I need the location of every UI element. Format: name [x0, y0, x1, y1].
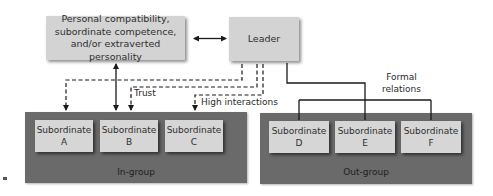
formal-relations-label: Formal relations: [382, 72, 421, 95]
stray-mark: [3, 177, 7, 180]
subordinate-e: Subordinate E: [335, 121, 395, 153]
subordinate-c: Subordinate C: [165, 120, 223, 152]
leader-node: Leader: [229, 17, 299, 61]
subordinate-c-letter: C: [191, 136, 197, 148]
subordinate-b-title: Subordinate: [102, 124, 157, 136]
subordinate-f-letter: F: [428, 137, 433, 149]
subordinate-b-letter: B: [126, 136, 132, 148]
leader-formal-line: [287, 63, 365, 100]
subordinate-a-letter: A: [61, 136, 67, 148]
high-interactions-label: High interactions: [201, 97, 278, 109]
subordinate-c-title: Subordinate: [167, 124, 222, 136]
subordinate-e-letter: E: [362, 137, 368, 149]
subordinate-a: Subordinate A: [35, 120, 93, 152]
factors-node: Personal compatibility, subordinate comp…: [46, 16, 185, 60]
subordinate-b: Subordinate B: [100, 120, 158, 152]
subordinate-f-title: Subordinate: [404, 125, 459, 137]
formal-relations-line-1: Formal: [382, 72, 421, 84]
trust-label: Trust: [134, 88, 156, 100]
subordinate-e-title: Subordinate: [338, 125, 393, 137]
factors-line-2: subordinate competence,: [55, 26, 177, 39]
subordinate-f: Subordinate F: [401, 121, 461, 153]
subordinate-d: Subordinate D: [269, 121, 329, 153]
out-group-label: Out-group: [260, 167, 472, 177]
subordinate-d-letter: D: [296, 137, 303, 149]
subordinate-a-title: Subordinate: [37, 124, 92, 136]
subordinate-d-title: Subordinate: [272, 125, 327, 137]
factors-line-1: Personal compatibility,: [61, 13, 169, 26]
in-group-label: In-group: [25, 167, 247, 177]
factors-line-3: and/or extraverted personality: [46, 38, 185, 63]
leader-label: Leader: [248, 33, 281, 46]
formal-relations-line-2: relations: [382, 84, 421, 96]
